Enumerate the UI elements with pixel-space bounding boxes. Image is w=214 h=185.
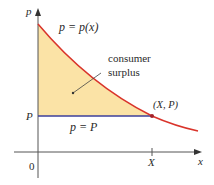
price-tick-label: P	[25, 110, 33, 122]
price-line-label: p = P	[69, 120, 98, 134]
surplus-label-line2: surplus	[108, 66, 140, 78]
y-axis-label: p	[25, 5, 32, 17]
consumer-surplus-diagram: p x 0 p = p(x) p = P P X (X, P) consumer…	[0, 0, 214, 185]
x-axis-label: x	[197, 155, 203, 167]
equilibrium-point	[150, 114, 154, 118]
y-axis-arrow-icon	[35, 8, 41, 16]
surplus-label-line1: consumer	[108, 52, 151, 64]
equilibrium-point-label: (X, P)	[153, 99, 179, 111]
origin-label: 0	[29, 160, 35, 172]
curve-label: p = p(x)	[58, 20, 98, 34]
surplus-leader-dot	[72, 92, 74, 94]
quantity-tick-label: X	[147, 156, 156, 168]
